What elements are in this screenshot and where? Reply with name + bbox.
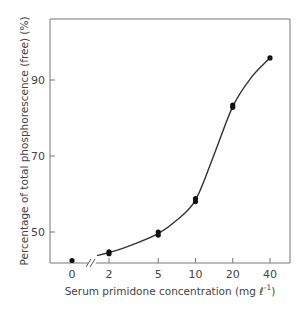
x-tick-label: 5	[155, 268, 162, 281]
y-tick-label: 90	[31, 74, 45, 87]
data-point	[267, 55, 272, 60]
chart: 507090 025102040 Percentage of total pho…	[0, 0, 306, 315]
data-points	[69, 55, 272, 263]
x-axis-title: Serum primidone concentration (mg ℓ-1)	[65, 283, 276, 297]
x-tick-label: 20	[226, 268, 240, 281]
fitted-curve	[97, 58, 270, 256]
y-axis: 507090	[31, 74, 55, 239]
y-tick-label: 70	[31, 150, 45, 163]
data-point	[106, 249, 111, 254]
x-tick-label: 10	[188, 268, 202, 281]
data-point	[69, 258, 74, 263]
data-point	[156, 229, 161, 234]
x-tick-label: 2	[106, 268, 113, 281]
y-axis-title: Percentage of total phosphorescence (fre…	[18, 16, 30, 265]
x-tick-label: 0	[69, 268, 76, 281]
data-point	[230, 102, 235, 107]
y-tick-label: 50	[31, 226, 45, 239]
x-tick-label: 40	[263, 268, 277, 281]
x-axis: 025102040	[69, 258, 278, 281]
data-point	[193, 196, 198, 201]
